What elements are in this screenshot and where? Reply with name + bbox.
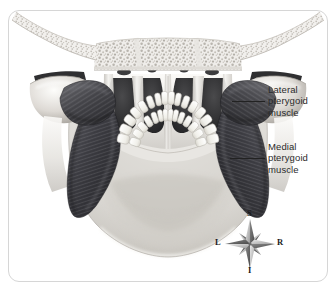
compass-label-superior: S (247, 209, 252, 218)
compass-label-inferior: I (248, 266, 251, 275)
leader-line-lateral-pterygoid (232, 101, 265, 102)
compass-label-left: L (215, 238, 221, 247)
trabecular-bone-band (94, 38, 242, 71)
lateral-pterygoid-muscle-left (60, 81, 116, 126)
zygomatic-arch-right (240, 12, 324, 60)
leader-line-medial-pterygoid (230, 158, 265, 159)
orientation-compass-rose: S I L R (216, 210, 284, 278)
zygomatic-arch-left (12, 12, 96, 60)
label-medial-pterygoid-muscle: Medial pterygoid muscle (268, 141, 308, 175)
label-lateral-pterygoid-muscle: Lateral pterygoid muscle (268, 84, 308, 118)
compass-label-right: R (277, 238, 283, 247)
